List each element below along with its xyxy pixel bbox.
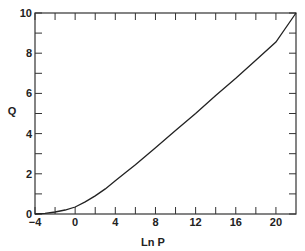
axis-ticks xyxy=(35,13,296,214)
chart: −40481216200246810 Ln P Q xyxy=(0,0,305,251)
tick-label: 16 xyxy=(230,216,242,228)
tick-label: 8 xyxy=(26,47,32,59)
tick-label: 0 xyxy=(26,208,32,220)
tick-label: 8 xyxy=(152,216,158,228)
tick-label: 2 xyxy=(26,168,32,180)
data-line xyxy=(35,13,296,214)
tick-label: 4 xyxy=(112,216,119,228)
tick-labels: −40481216200246810 xyxy=(20,7,282,228)
y-axis-label: Q xyxy=(8,105,17,117)
tick-label: 20 xyxy=(270,216,282,228)
plot-frame xyxy=(35,13,296,214)
x-axis-label: Ln P xyxy=(141,236,165,248)
tick-label: 0 xyxy=(72,216,78,228)
tick-label: 12 xyxy=(189,216,201,228)
tick-label: 4 xyxy=(26,128,33,140)
tick-label: 6 xyxy=(26,87,32,99)
tick-label: 10 xyxy=(20,7,32,19)
